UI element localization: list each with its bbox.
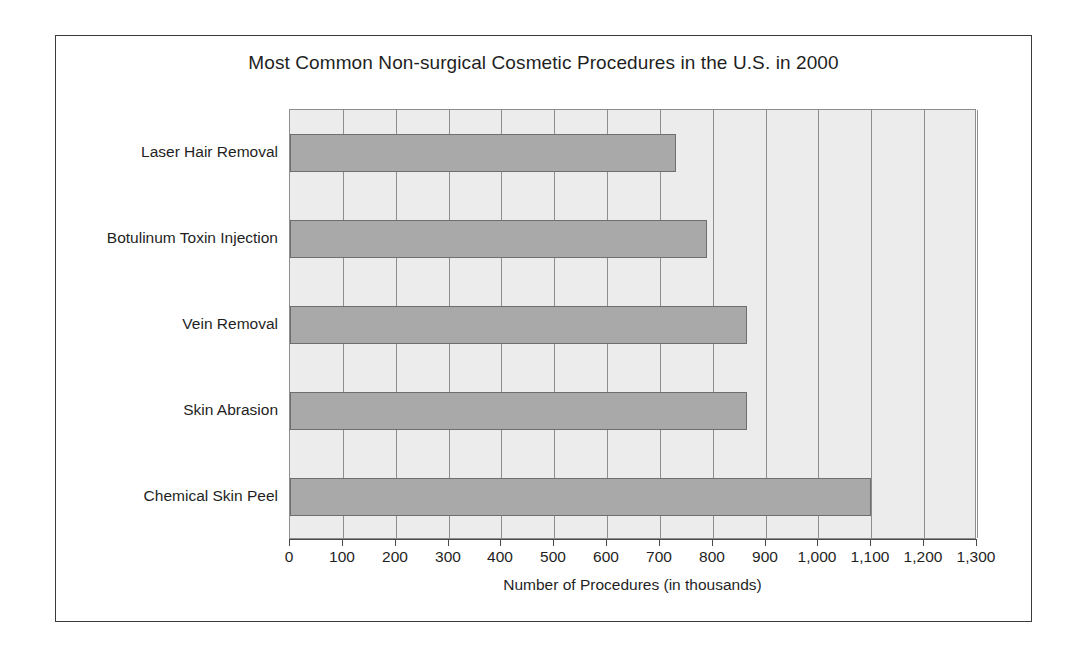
x-axis-tick-label: 1,300 (957, 548, 996, 566)
x-axis-tick-label: 1,200 (904, 548, 943, 566)
x-axis-line (289, 539, 976, 540)
gridline (766, 110, 767, 538)
x-axis-tick-label: 1,100 (851, 548, 890, 566)
chart-title: Most Common Non-surgical Cosmetic Proced… (56, 52, 1031, 74)
x-axis-tick-label: 300 (435, 548, 461, 566)
gridline (871, 110, 872, 538)
category-axis: Laser Hair RemovalBotulinum Toxin Inject… (56, 109, 278, 539)
x-axis-tick-label: 0 (285, 548, 294, 566)
x-axis-tick (712, 539, 713, 546)
category-axis-label: Vein Removal (182, 315, 278, 333)
x-axis-tick-label: 800 (699, 548, 725, 566)
x-axis-tick (395, 539, 396, 546)
bar (290, 478, 871, 516)
x-axis-tick (448, 539, 449, 546)
x-axis-tick-label: 600 (593, 548, 619, 566)
chart-frame: Most Common Non-surgical Cosmetic Proced… (55, 35, 1032, 622)
category-axis-label: Skin Abrasion (183, 401, 278, 419)
x-axis-tick (765, 539, 766, 546)
category-axis-label: Chemical Skin Peel (144, 487, 278, 505)
gridline (818, 110, 819, 538)
x-axis-tick (817, 539, 818, 546)
x-axis-tick-label: 700 (646, 548, 672, 566)
category-axis-label: Laser Hair Removal (141, 143, 278, 161)
x-axis-tick (976, 539, 977, 546)
bar (290, 220, 707, 258)
bar (290, 306, 747, 344)
x-axis-tick-label: 400 (487, 548, 513, 566)
x-axis-tick (659, 539, 660, 546)
x-axis-tick (342, 539, 343, 546)
x-axis-tick-label: 1,000 (798, 548, 837, 566)
bar (290, 134, 676, 172)
gridline (924, 110, 925, 538)
x-axis-tick (606, 539, 607, 546)
x-axis-tick (553, 539, 554, 546)
x-axis-tick (289, 539, 290, 546)
x-axis-tick (923, 539, 924, 546)
x-axis-tick (870, 539, 871, 546)
x-axis-title: Number of Procedures (in thousands) (289, 576, 976, 594)
x-axis-tick-label: 900 (752, 548, 778, 566)
bar (290, 392, 747, 430)
category-axis-label: Botulinum Toxin Injection (107, 229, 278, 247)
x-axis-tick-label: 200 (382, 548, 408, 566)
x-axis-tick-label: 500 (540, 548, 566, 566)
plot-area (289, 109, 976, 539)
x-axis-tick (500, 539, 501, 546)
gridline (977, 110, 978, 538)
x-axis-tick-label: 100 (329, 548, 355, 566)
